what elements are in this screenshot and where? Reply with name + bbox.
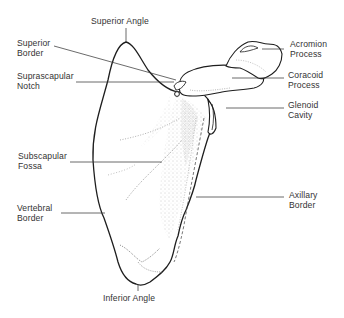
- label-acromion-process: Acromion Process: [290, 39, 327, 59]
- figure-caption-faint: [60, 308, 230, 314]
- label-glenoid-cavity: Glenoid Cavity: [288, 100, 318, 120]
- label-superior-angle: Superior Angle: [91, 16, 149, 26]
- suprascapular-notch-mark: [175, 92, 180, 97]
- label-inferior-angle: Inferior Angle: [103, 293, 155, 303]
- label-suprascapular-notch: Suprascapular Notch: [17, 71, 74, 91]
- scapula-diagram: Superior Angle Superior Border Suprascap…: [0, 0, 344, 318]
- label-superior-border: Superior Border: [17, 38, 50, 58]
- label-axillary-border: Axillary Border: [289, 190, 318, 210]
- label-coracoid-process: Coracoid Process: [288, 70, 323, 90]
- label-subscapular-fossa: Subscapular Fossa: [18, 151, 67, 171]
- label-vertebral-border: Vertebral Border: [17, 203, 52, 223]
